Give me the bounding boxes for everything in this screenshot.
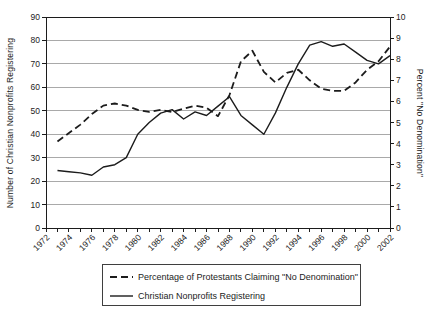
x-tick-label: 2000 xyxy=(352,232,373,253)
y-right-tick-label: 1 xyxy=(396,202,401,212)
y-right-tick-label: 5 xyxy=(396,118,401,128)
x-tick-label: 1982 xyxy=(146,232,167,253)
y-left-tick-label: 0 xyxy=(35,223,40,233)
y-left-tick-label: 50 xyxy=(31,106,41,116)
line-chart: 0102030405060708090012345678910197219741… xyxy=(0,0,436,320)
x-tick-label: 1984 xyxy=(169,232,190,253)
y-right-tick-label: 4 xyxy=(396,139,401,149)
x-tick-label: 1988 xyxy=(214,232,235,253)
x-tick-label: 1990 xyxy=(237,232,258,253)
y-left-tick-label: 70 xyxy=(31,59,41,69)
y-left-tick-label: 20 xyxy=(31,176,41,186)
y-left-tick-label: 10 xyxy=(31,200,41,210)
x-tick-label: 1998 xyxy=(329,232,350,253)
legend-label-dashed: Percentage of Protestants Claiming "No D… xyxy=(138,272,358,282)
x-tick-label: 1994 xyxy=(283,232,304,253)
legend-label-solid: Christian Nonprofits Registering xyxy=(138,291,265,301)
y-left-tick-label: 60 xyxy=(31,82,41,92)
x-tick-label: 1996 xyxy=(306,232,327,253)
y-axis-left-title: Number of Christian Nonprofits Registeri… xyxy=(5,38,15,209)
x-tick-label: 2002 xyxy=(375,232,396,253)
x-tick-label: 1992 xyxy=(260,232,281,253)
y-right-tick-label: 6 xyxy=(396,96,401,106)
x-tick-label: 1978 xyxy=(100,232,121,253)
x-tick-label: 1986 xyxy=(191,232,212,253)
x-tick-label: 1980 xyxy=(123,232,144,253)
legend: Percentage of Protestants Claiming "No D… xyxy=(102,264,360,305)
gridlines xyxy=(46,40,390,204)
y-left-tick-label: 90 xyxy=(31,12,41,22)
y-right-tick-label: 10 xyxy=(396,12,406,22)
x-tick-label: 1972 xyxy=(31,232,52,253)
y-left-tick-label: 40 xyxy=(31,129,41,139)
data-series xyxy=(57,42,390,176)
y-axis-right-title: Percent "No Denomination" xyxy=(415,69,425,177)
y-right-tick-label: 2 xyxy=(396,181,401,191)
y-right-tick-label: 7 xyxy=(396,75,401,85)
axes xyxy=(46,17,390,228)
y-right-tick-label: 9 xyxy=(396,33,401,43)
y-left-tick-label: 30 xyxy=(31,153,41,163)
x-tick-label: 1974 xyxy=(54,232,75,253)
x-tick-label: 1976 xyxy=(77,232,98,253)
y-right-tick-label: 8 xyxy=(396,54,401,64)
y-left-tick-label: 80 xyxy=(31,35,41,45)
y-right-tick-label: 3 xyxy=(396,160,401,170)
y-right-tick-label: 0 xyxy=(396,223,401,233)
series-line-dashed xyxy=(57,47,390,142)
chart-figure: 0102030405060708090012345678910197219741… xyxy=(0,0,436,320)
series-line-solid xyxy=(57,42,390,176)
